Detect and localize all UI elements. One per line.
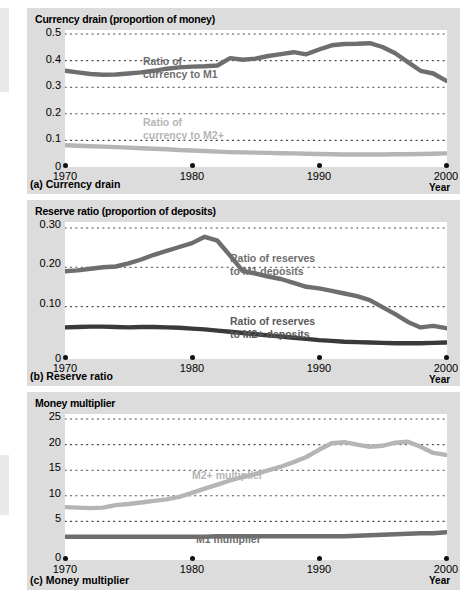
panel-c-ytick-1: 20 bbox=[28, 436, 61, 448]
left-edge-artifact-top bbox=[0, 8, 9, 92]
currency-to-m2-label: Ratio of currency to M2+ bbox=[143, 116, 224, 141]
panel-a-axis-title: Currency drain (proportion of money) bbox=[35, 13, 215, 25]
panel-b-xtick-2: 1990 bbox=[299, 362, 339, 374]
left-white-margin bbox=[0, 0, 14, 615]
panel-c-xtick-3: 2000 bbox=[426, 563, 466, 575]
panel-a-ytick-1: 0.4 bbox=[28, 53, 61, 65]
panel-c-xtick-0: 1970 bbox=[45, 563, 85, 575]
panel-c-xtick-2: 1990 bbox=[299, 563, 339, 575]
panel-c-ytick-2: 15 bbox=[28, 461, 61, 473]
panel-c-xtick-1: 1980 bbox=[172, 563, 212, 575]
panel-b-xtick-1: 1980 bbox=[172, 362, 212, 374]
panel-c-caption: (c) Money multiplier bbox=[30, 574, 129, 586]
panel-a-series-currency-to-m1 bbox=[65, 43, 446, 80]
panel-a-ytick-2: 0.3 bbox=[28, 79, 61, 91]
panel-c-xlabel: Year bbox=[429, 575, 450, 586]
panel-a-xdot-1980 bbox=[190, 163, 195, 168]
figure-root: Currency drain (proportion of money) (a)… bbox=[0, 0, 476, 615]
panel-b-ytick-0: 0.30 bbox=[22, 218, 61, 230]
reserves-to-m2-label-line2: to M2+ deposits bbox=[230, 328, 315, 341]
panel-a-xdot-2000 bbox=[444, 163, 449, 168]
currency-to-m1-label-line2: currency to M1 bbox=[143, 68, 218, 81]
panel-a-ytick-0: 0.5 bbox=[28, 26, 61, 38]
panel-b-xdot-2000 bbox=[444, 355, 449, 360]
panel-a-xtick-2: 1990 bbox=[299, 170, 339, 182]
panel-a-xlabel: Year bbox=[429, 182, 450, 193]
panel-a-svg bbox=[65, 30, 447, 167]
panel-c-axis-title: Money multiplier bbox=[35, 397, 115, 409]
panel-a-xtick-0: 1970 bbox=[45, 170, 85, 182]
panel-a-series-currency-to-m2 bbox=[65, 145, 446, 154]
m1-multiplier-label-line1: M1 multiplier bbox=[196, 533, 261, 546]
panel-c-ytick-3: 10 bbox=[28, 487, 61, 499]
reserves-to-m1-label-line2: to M1 deposits bbox=[230, 265, 315, 278]
currency-to-m2-label-line2: currency to M2+ bbox=[143, 129, 224, 142]
panel-a-ytick-3: 0.2 bbox=[28, 106, 61, 118]
panel-a-xtick-3: 2000 bbox=[426, 170, 466, 182]
panel-c-xdot-1990 bbox=[317, 556, 322, 561]
panel-c-xdot-1970 bbox=[63, 556, 68, 561]
panel-b-xdot-1990 bbox=[317, 355, 322, 360]
reserves-to-m1-label-line1: Ratio of reserves bbox=[230, 252, 315, 265]
panel-c-xdot-1980 bbox=[190, 556, 195, 561]
panel-c-xdot-2000 bbox=[444, 556, 449, 561]
currency-to-m2-label-line1: Ratio of bbox=[143, 116, 224, 129]
left-edge-artifact-bottom bbox=[0, 455, 9, 515]
currency-to-m1-label: Ratio of currency to M1 bbox=[143, 55, 218, 80]
panel-b-ytick-2: 0.10 bbox=[22, 297, 61, 309]
panel-c-ytick-5: 0 bbox=[28, 551, 61, 563]
panel-a-xdot-1990 bbox=[317, 163, 322, 168]
m2-multiplier-label: M2+ multiplier bbox=[192, 469, 263, 482]
reserves-to-m1-label: Ratio of reserves to M1 deposits bbox=[230, 252, 315, 277]
panel-a-plot-area bbox=[65, 30, 447, 167]
m1-multiplier-label: M1 multiplier bbox=[196, 533, 261, 546]
panel-b-xdot-1980 bbox=[190, 355, 195, 360]
reserves-to-m2-label: Ratio of reserves to M2+ deposits bbox=[230, 315, 315, 340]
reserves-to-m2-label-line1: Ratio of reserves bbox=[230, 315, 315, 328]
panel-b-ytick-1: 0.20 bbox=[22, 257, 61, 269]
currency-to-m1-label-line1: Ratio of bbox=[143, 55, 218, 68]
panel-c-ytick-4: 5 bbox=[28, 512, 61, 524]
panel-c-ytick-0: 25 bbox=[28, 410, 61, 422]
panel-b-axis-title: Reserve ratio (proportion of deposits) bbox=[35, 205, 216, 217]
panel-a-xdot-1970 bbox=[63, 163, 68, 168]
panel-a-xtick-1: 1980 bbox=[172, 170, 212, 182]
m2-multiplier-label-line1: M2+ multiplier bbox=[192, 469, 263, 482]
panel-b-xdot-1970 bbox=[63, 355, 68, 360]
panel-a-ytick-4: 0.1 bbox=[28, 132, 61, 144]
panel-b-xlabel: Year bbox=[429, 374, 450, 385]
panel-b-xtick-0: 1970 bbox=[45, 362, 85, 374]
panel-b-xtick-3: 2000 bbox=[426, 362, 466, 374]
